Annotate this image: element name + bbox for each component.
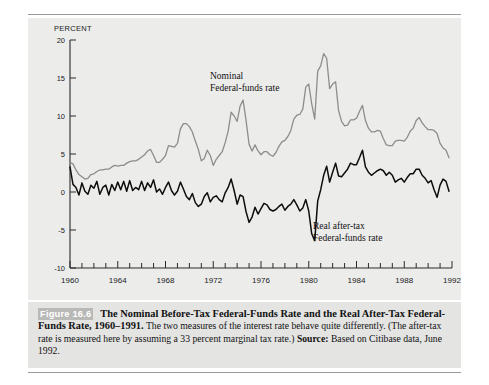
- y-axis-tick-label: 10: [57, 112, 65, 121]
- x-axis-tick-label: 1984: [348, 276, 366, 285]
- x-axis-tick-label: 1988: [395, 276, 413, 285]
- x-axis-tick-label: 1964: [109, 276, 127, 285]
- x-axis-tick-label: 1972: [204, 276, 222, 285]
- figure-caption-panel: Figure 16.6The Nominal Before-Tax Federa…: [28, 302, 461, 368]
- y-axis-tick-label: -10: [54, 264, 65, 273]
- figure-container: -10-505101520196019641968197219761980198…: [0, 0, 489, 385]
- x-axis-tick-label: 1976: [252, 276, 270, 285]
- annotation-nominal-line1: Nominal: [210, 70, 279, 82]
- x-axis-tick-label: 1968: [157, 276, 175, 285]
- bottom-divider-rule: [28, 372, 461, 373]
- chart-plot-panel: -10-505101520196019641968197219761980198…: [28, 18, 461, 300]
- x-axis-tick-label: 1992: [443, 276, 461, 285]
- x-axis-tick-label: 1980: [300, 276, 318, 285]
- figure-caption-text: Figure 16.6The Nominal Before-Tax Federa…: [38, 308, 452, 358]
- top-divider-rule: [28, 14, 461, 15]
- chart-svg: -10-505101520196019641968197219761980198…: [28, 18, 461, 300]
- figure-number-badge: Figure 16.6: [38, 308, 93, 320]
- x-axis-tick-label: 1960: [61, 276, 79, 285]
- y-axis-tick-label: 15: [57, 74, 65, 83]
- y-axis-tick-label: 5: [61, 150, 65, 159]
- y-axis-tick-label: 0: [61, 188, 65, 197]
- annotation-real-line2: Federal-funds rate: [313, 232, 382, 244]
- annotation-real-line1: Real after-tax: [313, 220, 382, 232]
- y-axis-tick-label: 20: [57, 36, 65, 45]
- annotation-nominal-line2: Federal-funds rate: [210, 82, 279, 94]
- series-annotation-nominal: Nominal Federal-funds rate: [210, 70, 279, 94]
- figure-source-label: Source:: [297, 333, 329, 344]
- y-axis-tick-label: -5: [58, 226, 65, 235]
- series-annotation-real: Real after-tax Federal-funds rate: [313, 220, 382, 244]
- y-axis-unit-label: PERCENT: [54, 24, 92, 33]
